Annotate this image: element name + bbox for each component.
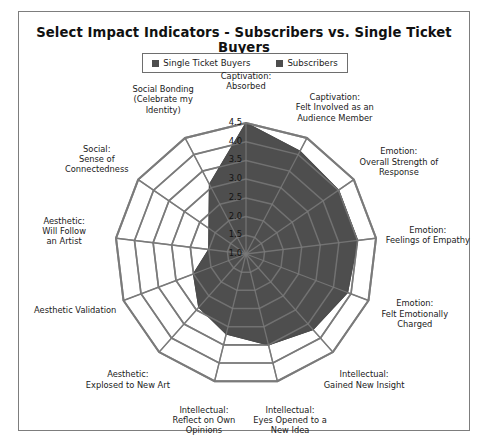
radar-axis-label: Intellectual: Gained New Insight <box>318 369 410 389</box>
radial-tick-label: 2.0 <box>202 211 242 221</box>
radar-axis-label: Captivation: Absorbed <box>203 71 289 91</box>
radial-tick-label: 1.0 <box>202 248 242 258</box>
radar-axis-label: Intellectual: Eyes Opened to a New Idea <box>247 405 333 436</box>
radar-axis-label: Captivation: Felt Involved as an Audienc… <box>287 92 383 123</box>
radial-tick-label: 4.0 <box>202 136 242 146</box>
radar-axis-label: Intellectual: Reflect on Own Opinions <box>163 405 245 436</box>
radar-axis-label: Emotion: Felt Emotionally Charged <box>373 298 457 329</box>
radar-axis-label: Emotion: Overall Strength of Response <box>351 146 447 177</box>
radar-axis-label: Emotion: Feelings of Empathy <box>382 225 474 245</box>
radar-axis-label: Aesthetic: Will Follow an Artist <box>30 216 98 247</box>
radial-tick-label: 1.5 <box>202 229 242 239</box>
chart-frame: Select Impact Indicators - Subscribers v… <box>18 11 470 431</box>
radar-plot-area: 1.01.52.02.53.03.54.04.5Captivation: Abs… <box>19 12 471 432</box>
radial-tick-label: 3.5 <box>202 154 242 164</box>
radar-axis-label: Aesthetic: Explosed to New Art <box>79 369 177 389</box>
radial-tick-label: 4.5 <box>202 117 242 127</box>
radar-axis-label: Social Bonding (Celebrate my Identity) <box>121 84 205 115</box>
radial-tick-label: 3.0 <box>202 173 242 183</box>
radar-axis-label: Aesthetic Validation <box>29 305 121 315</box>
radial-tick-label: 2.5 <box>202 192 242 202</box>
radar-axis-label: Social: Sense of Connectedness <box>57 144 137 175</box>
